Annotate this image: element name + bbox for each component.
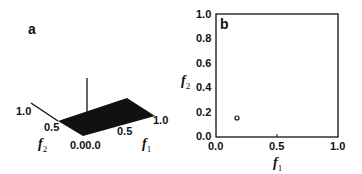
y-tick-0.4: 0.4 — [196, 82, 211, 93]
x-tick-1.0: 1.0 — [330, 141, 345, 152]
x-tick-0.0: 0.0 — [208, 141, 223, 152]
y-tick-0.6: 0.6 — [196, 58, 211, 69]
x-axis-title: f1 — [273, 156, 282, 174]
y-tick-0.8: 0.8 — [196, 33, 211, 44]
panel-b-label: b — [220, 17, 229, 31]
y-tick-1.0: 1.0 — [196, 9, 211, 20]
x-tick-0.5: 0.5 — [269, 141, 284, 152]
y-axis-title: f2 — [181, 74, 190, 93]
data-point — [235, 116, 239, 120]
y-tick-0.2: 0.2 — [196, 107, 211, 118]
